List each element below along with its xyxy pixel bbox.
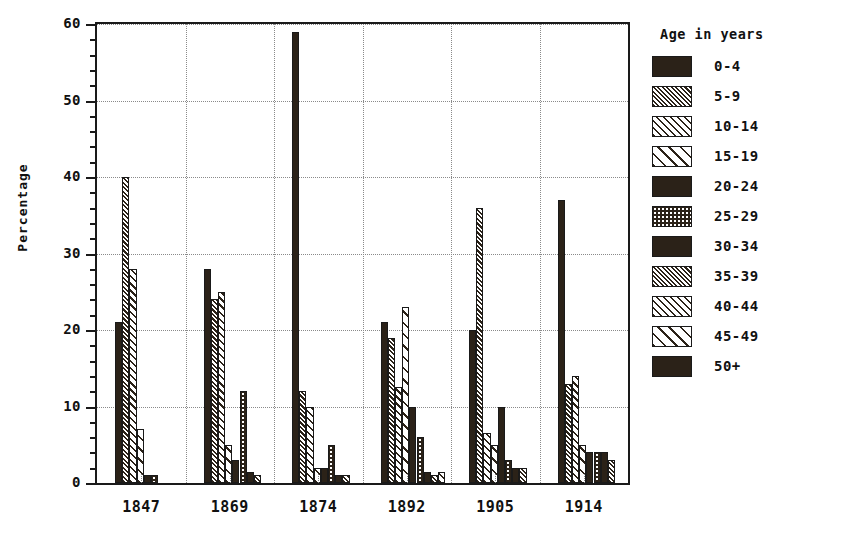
y-tick-minor — [90, 162, 97, 164]
x-tick-label: 1905 — [451, 498, 540, 516]
bar — [498, 407, 505, 484]
y-tick-label: 60 — [37, 15, 81, 31]
y-tick-minor — [90, 238, 97, 240]
legend-swatch — [652, 176, 692, 197]
y-tick-major — [86, 177, 97, 179]
bar — [512, 468, 519, 483]
legend-item[interactable]: 5-9 — [652, 81, 842, 111]
legend-item[interactable]: 10-14 — [652, 111, 842, 141]
bar — [594, 452, 601, 483]
y-tick-minor — [90, 223, 97, 225]
bar — [151, 475, 158, 483]
y-tick-minor — [90, 146, 97, 148]
y-tick-minor — [90, 192, 97, 194]
legend-label: 20-24 — [714, 178, 759, 194]
y-tick-label: 40 — [37, 168, 81, 184]
bar — [608, 460, 615, 483]
y-tick-minor — [90, 269, 97, 271]
legend-item[interactable]: 0-4 — [652, 51, 842, 81]
bar — [431, 475, 438, 483]
legend-swatch — [652, 56, 692, 77]
bar — [240, 391, 247, 483]
legend-item[interactable]: 30-34 — [652, 231, 842, 261]
y-tick-label: 50 — [37, 92, 81, 108]
y-tick-minor — [90, 55, 97, 57]
legend-swatch — [652, 116, 692, 137]
legend-item[interactable]: 45-49 — [652, 321, 842, 351]
legend-label: 10-14 — [714, 118, 759, 134]
bar-group — [186, 24, 275, 483]
bar — [565, 384, 572, 483]
y-tick-minor — [90, 39, 97, 41]
legend-label: 25-29 — [714, 208, 759, 224]
legend-item[interactable]: 35-39 — [652, 261, 842, 291]
y-tick-major — [86, 101, 97, 103]
x-tick-label: 1874 — [274, 498, 363, 516]
legend-item[interactable]: 40-44 — [652, 291, 842, 321]
legend-item[interactable]: 25-29 — [652, 201, 842, 231]
bar — [424, 472, 431, 483]
bar — [292, 32, 299, 483]
legend-swatch — [652, 86, 692, 107]
y-tick-minor — [90, 452, 97, 454]
bar — [247, 472, 254, 483]
y-tick-minor — [90, 315, 97, 317]
legend-item[interactable]: 20-24 — [652, 171, 842, 201]
bar — [505, 460, 512, 483]
bar — [321, 468, 328, 483]
y-axis-title: Percentage — [15, 148, 30, 268]
bar-group — [274, 24, 363, 483]
y-tick-label: 0 — [37, 474, 81, 490]
legend-label: 0-4 — [714, 58, 741, 74]
x-tick-marker — [584, 474, 585, 483]
bar — [115, 322, 122, 483]
chart-figure: Percentage Age in years 0-45-910-1415-19… — [0, 0, 850, 544]
bar — [476, 208, 483, 483]
y-tick-minor — [90, 468, 97, 470]
bar — [586, 452, 593, 483]
legend-label: 15-19 — [714, 148, 759, 164]
bar — [137, 429, 144, 483]
bar — [558, 200, 565, 483]
bar — [204, 269, 211, 483]
legend-swatch — [652, 266, 692, 287]
bar — [519, 468, 526, 483]
y-tick-major — [86, 330, 97, 332]
bar — [381, 322, 388, 483]
bar — [218, 292, 225, 483]
bar — [469, 330, 476, 483]
bar — [402, 307, 409, 483]
legend-label: 30-34 — [714, 238, 759, 254]
legend-item[interactable]: 15-19 — [652, 141, 842, 171]
y-tick-minor — [90, 422, 97, 424]
y-tick-minor — [90, 116, 97, 118]
legend-label: 40-44 — [714, 298, 759, 314]
plot-area — [95, 22, 630, 485]
legend-label: 5-9 — [714, 88, 741, 104]
y-tick-minor — [90, 391, 97, 393]
bar-group — [540, 24, 629, 483]
bar — [388, 338, 395, 483]
x-tick-marker — [141, 474, 142, 483]
legend-swatch — [652, 146, 692, 167]
bar — [409, 407, 416, 484]
bar — [335, 475, 342, 483]
bar — [225, 445, 232, 483]
y-tick-minor — [90, 284, 97, 286]
x-tick-marker — [318, 474, 319, 483]
y-tick-minor — [90, 131, 97, 133]
bar — [572, 376, 579, 483]
y-tick-minor — [90, 345, 97, 347]
x-tick-label: 1892 — [363, 498, 452, 516]
bar-group — [97, 24, 186, 483]
bar — [254, 475, 261, 483]
y-tick-major — [86, 24, 97, 26]
legend-swatch — [652, 296, 692, 317]
bar — [395, 387, 402, 483]
legend-item[interactable]: 50+ — [652, 351, 842, 381]
y-tick-minor — [90, 70, 97, 72]
y-tick-major — [86, 407, 97, 409]
legend: Age in years 0-45-910-1415-1920-2425-293… — [652, 26, 842, 381]
bar — [306, 407, 313, 484]
x-tick-marker — [230, 474, 231, 483]
